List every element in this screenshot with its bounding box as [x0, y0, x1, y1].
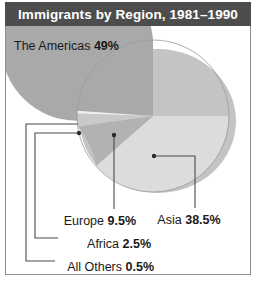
slice-label-africa-value: 2.5% [123, 237, 152, 251]
slice-label-europe: Europe 9.5% [64, 215, 136, 228]
leader-line-all-others [26, 124, 78, 261]
slice-label-all-others-name: All Others [67, 260, 122, 274]
slice-label-europe-name: Europe [64, 214, 104, 228]
slice-label-americas: The Americas 49% [14, 40, 119, 53]
pie-chart-figure: Immigrants by Region, 1981–1990 [0, 0, 262, 281]
slice-label-africa: Africa 2.5% [87, 238, 151, 251]
slice-label-all-others-value: 0.5% [126, 260, 155, 274]
slice-label-americas-value: 49% [94, 39, 119, 53]
page-title: Immigrants by Region, 1981–1990 [18, 7, 238, 22]
leader-dot-asia [152, 154, 156, 158]
slice-label-americas-name: The Americas [14, 39, 90, 53]
slice-label-asia: Asia 38.5% [157, 214, 220, 227]
slice-label-africa-name: Africa [87, 237, 119, 251]
leader-dot-africa [77, 131, 81, 135]
slice-label-asia-name: Asia [157, 213, 181, 227]
slice-label-asia-value: 38.5% [185, 213, 220, 227]
chart-title-bar: Immigrants by Region, 1981–1990 [5, 2, 251, 26]
leader-dot-europe [112, 133, 116, 137]
slice-label-all-others: All Others 0.5% [67, 261, 154, 274]
slice-label-europe-value: 9.5% [108, 214, 137, 228]
